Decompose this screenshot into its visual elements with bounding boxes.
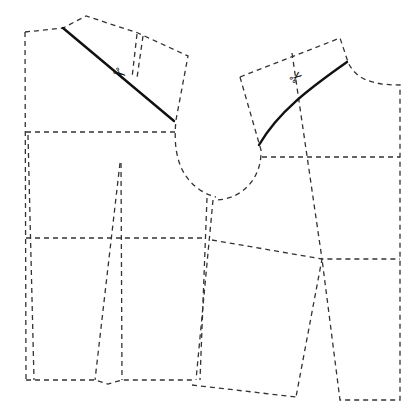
right-piece-hip-line bbox=[212, 240, 400, 259]
left-piece-shoulder-dart bbox=[132, 34, 137, 78]
left-pattern-piece: ✂ bbox=[25, 16, 216, 384]
right-piece-cut-line bbox=[259, 62, 347, 145]
right-piece-bottom bbox=[192, 385, 296, 397]
left-piece-side-seam-2 bbox=[196, 200, 213, 380]
left-piece-left-edge bbox=[25, 32, 26, 380]
right-piece-armhole bbox=[215, 77, 261, 200]
left-piece-waist-dart-right bbox=[121, 163, 122, 380]
left-piece-left-edge-inner bbox=[28, 135, 34, 380]
left-piece-shoulder-dart-2 bbox=[137, 36, 143, 78]
left-piece-outline bbox=[25, 16, 216, 197]
left-piece-bottom bbox=[26, 380, 192, 384]
sewing-pattern-diagram: ✂ ✂ bbox=[0, 0, 418, 417]
scissors-icon-right: ✂ bbox=[285, 66, 307, 89]
left-piece-side-seam bbox=[200, 198, 207, 380]
right-pattern-piece: ✂ bbox=[192, 38, 400, 400]
right-piece-center-line bbox=[292, 53, 322, 397]
right-piece-outline-top bbox=[240, 38, 400, 400]
left-piece-waist-dart-left bbox=[95, 163, 120, 380]
pattern-svg: ✂ ✂ bbox=[0, 0, 418, 417]
